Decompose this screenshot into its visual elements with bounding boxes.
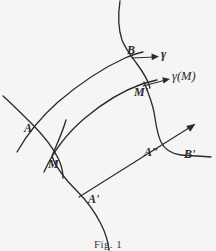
arrowhead-gamma [152, 54, 160, 61]
label-point-m: M [48, 158, 59, 170]
arrow-line-aprime-to-adoubleprime [79, 126, 192, 197]
figure-page: B γ γ(M) M' A M A″ B' A' Fig. 1 [0, 0, 216, 251]
figure-caption: Fig. 1 [0, 238, 216, 250]
label-point-a: A [24, 122, 32, 134]
label-point-b: B [127, 44, 135, 56]
arc-upper-a-to-b [17, 52, 143, 152]
label-point-m-prime: M' [134, 86, 148, 98]
arrowhead-gamma-of-m [162, 77, 170, 83]
label-gamma-of-m: γ(M) [172, 70, 196, 83]
label-point-a-double-prime: A″ [144, 146, 159, 158]
label-point-a-prime: A' [88, 193, 99, 205]
figure-drawing [0, 0, 216, 251]
label-gamma: γ [161, 48, 166, 61]
curve-through-m-aprime [52, 120, 109, 250]
arrowhead-adoubleprime-line [186, 124, 195, 132]
label-point-b-prime: B' [184, 148, 195, 160]
arrow-line-gamma [132, 57, 155, 58]
